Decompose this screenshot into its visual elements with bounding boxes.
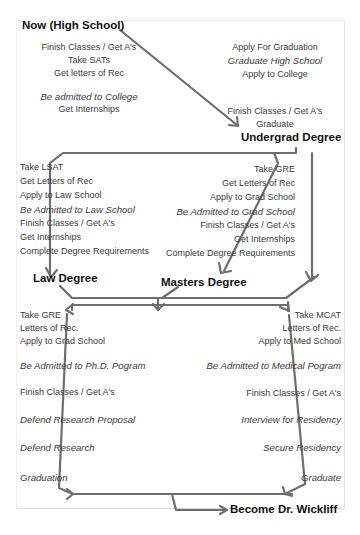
phd-step: Letters of Rec. — [20, 323, 79, 334]
arrow-head-icon — [280, 302, 289, 311]
flow-arrows — [0, 0, 360, 535]
hs-step: Get Internships — [58, 104, 119, 115]
med-step: Apply to Med School — [258, 336, 341, 347]
law-step: Complete Degree Requirements — [20, 246, 149, 257]
masters-step: Get Internships — [234, 234, 295, 245]
masters-milestone: Be Admitted to Grad School — [176, 206, 295, 217]
masters-step: Finish Classes / Get A's — [200, 220, 295, 231]
phd-milestone: Defend Research Proposal — [20, 414, 135, 425]
phd-step: Apply to Grad School — [20, 336, 105, 347]
hs-milestone: Be admitted to College — [40, 91, 137, 102]
masters-connector — [162, 287, 178, 298]
undergrad-step: Finish Classes / Get A's — [228, 106, 323, 117]
law-step: Take LSAT — [20, 162, 63, 173]
stage-heading-final: Become Dr. Wickliff — [230, 504, 337, 515]
stage-heading-masters: Masters Degree — [161, 277, 247, 288]
undergrad-step: Graduate — [256, 119, 294, 130]
law-step: Finish Classes / Get A's — [20, 218, 115, 229]
phd-milestone: Be Admitted to Ph.D. Pogram — [20, 360, 146, 371]
med-step: Finish Classes / Get A's — [246, 388, 341, 399]
phd-step: Finish Classes / Get A's — [20, 387, 115, 398]
law-milestone: Be Admitted to Law School — [20, 204, 135, 215]
arrow-to-medical — [72, 305, 288, 311]
phd-milestone: Graduation — [20, 472, 67, 483]
stage-heading-law: Law Degree — [33, 273, 98, 284]
phd-milestone: Defend Research — [20, 442, 95, 453]
hs-right-step: Apply to College — [242, 69, 308, 80]
hs-right-milestone: Graduate High School — [228, 55, 322, 66]
masters-step: Take GRE — [254, 164, 295, 175]
masters-step: Get Letters of Rec — [222, 178, 295, 189]
med-milestone: Be Admitted to Medical Pogram — [206, 360, 341, 371]
med-step: Letters of Rec. — [282, 323, 341, 334]
hs-step: Finish Classes / Get A's — [42, 42, 137, 53]
hs-right-step: Apply For Graduation — [232, 42, 318, 53]
hs-step: Get letters of Rec — [54, 68, 124, 79]
law-step: Apply to Law School — [20, 190, 102, 201]
hs-step: Take SATs — [68, 55, 110, 66]
stage-heading-undergrad: Undergrad Degree — [241, 132, 341, 143]
stage-heading-high-school: Now (High School) — [22, 20, 124, 31]
law-step: Get Letters of Rec — [20, 176, 93, 187]
arrow-to-final — [172, 494, 225, 510]
med-milestone: Graduate — [301, 472, 341, 483]
masters-step: Apply to Grad School — [210, 192, 295, 203]
arrow-highschool-to-undergrad — [120, 30, 237, 125]
med-milestone: Interview for Residency — [241, 414, 341, 425]
med-milestone: Secure Residency — [263, 442, 341, 453]
law-step: Get Internships — [20, 232, 81, 243]
masters-step: Complete Degree Requirements — [166, 248, 295, 259]
phd-step: Take GRE — [20, 310, 61, 321]
med-step: Take MCAT — [295, 310, 341, 321]
